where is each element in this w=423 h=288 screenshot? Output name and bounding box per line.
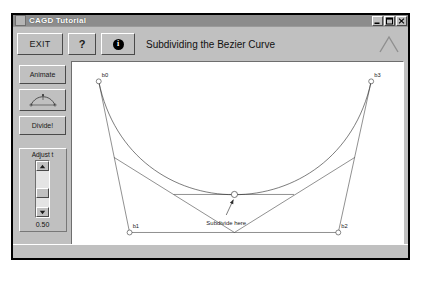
bezier-diagram: b0 b1 b2 b3 Subdivide here: [72, 62, 401, 257]
bezier-canvas[interactable]: b0 b1 b2 b3 Subdivide here: [71, 61, 404, 258]
content-area: Animate Divide! Adjust t: [13, 61, 408, 258]
label-b0: b0: [102, 72, 108, 78]
control-point-b2[interactable]: [336, 230, 341, 235]
system-menu-icon[interactable]: [15, 15, 26, 26]
main-toolbar: EXIT ? i Subdividing the Bezier Curve: [13, 27, 408, 61]
maximize-button[interactable]: [384, 16, 395, 26]
divide-button-label: Divide!: [32, 122, 53, 129]
help-button[interactable]: ?: [68, 33, 96, 55]
info-button[interactable]: i: [101, 33, 135, 55]
slider-thumb[interactable]: [36, 188, 49, 198]
adjust-t-label: Adjust t: [32, 151, 54, 158]
divide-button[interactable]: Divide!: [19, 116, 66, 135]
help-button-label: ?: [79, 38, 86, 50]
arrow-up-icon: [39, 164, 46, 169]
control-point-b1[interactable]: [127, 230, 132, 235]
close-button[interactable]: [396, 16, 407, 26]
window-title: CAGD Tutorial: [29, 16, 86, 25]
t-slider[interactable]: [35, 160, 50, 218]
application-window: CAGD Tutorial EXIT ? i: [11, 13, 410, 260]
curve-preview-button[interactable]: [19, 89, 66, 111]
exit-button-label: EXIT: [29, 39, 50, 49]
subdivide-annotation: Subdivide here: [206, 220, 246, 226]
subdivision-point[interactable]: [231, 191, 237, 197]
status-bar: [13, 244, 408, 258]
tool-sidebar: Animate Divide! Adjust t: [13, 61, 71, 258]
bezier-curve: [99, 81, 371, 194]
animate-button-label: Animate: [30, 71, 56, 78]
t-value-readout: 0.50: [36, 221, 50, 228]
window-titlebar: CAGD Tutorial: [13, 15, 408, 27]
exit-button[interactable]: EXIT: [17, 33, 63, 55]
arrow-down-icon: [39, 210, 46, 215]
slider-up-button[interactable]: [36, 161, 49, 171]
label-b1: b1: [133, 223, 139, 229]
subdivide-arrow-icon: [226, 200, 233, 215]
close-icon: [397, 17, 406, 25]
label-b3: b3: [374, 72, 380, 78]
maximize-icon: [385, 17, 394, 25]
control-point-b0[interactable]: [96, 79, 101, 84]
slider-track[interactable]: [36, 171, 49, 207]
info-icon: i: [113, 39, 124, 50]
minimize-icon: [373, 17, 382, 25]
minimize-button[interactable]: [372, 16, 383, 26]
control-point-b3[interactable]: [369, 79, 374, 84]
chevron-logo-icon: [378, 34, 400, 54]
adjust-t-panel: Adjust t 0.: [19, 148, 67, 232]
label-b2: b2: [341, 223, 347, 229]
animate-button[interactable]: Animate: [19, 65, 66, 84]
bezier-curve-icon: [28, 92, 58, 108]
slider-down-button[interactable]: [36, 207, 49, 217]
